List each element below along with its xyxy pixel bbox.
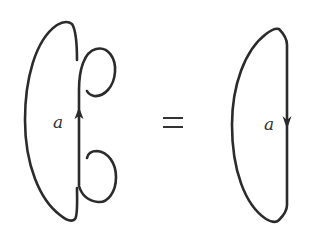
- right-loop: [232, 29, 287, 222]
- equals-sign: [163, 118, 183, 127]
- left-label-a: a: [53, 112, 63, 132]
- skein-relation-diagram: a a: [0, 0, 313, 235]
- right-figure-loop: a: [232, 29, 292, 222]
- lower-kink: [79, 151, 116, 202]
- upper-kink: [79, 49, 115, 185]
- left-arc: [25, 22, 77, 220]
- left-figure-kinked-strand: a: [25, 22, 116, 220]
- right-label-a: a: [264, 114, 274, 134]
